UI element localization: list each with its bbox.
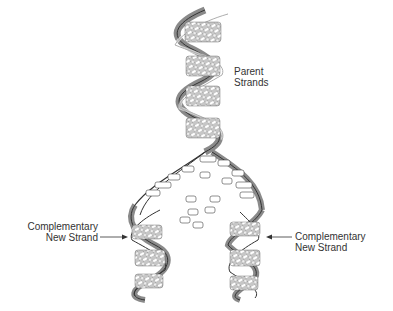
parent-label-line-1: Parent	[234, 66, 268, 77]
right-new-strand-label: Complementary New Strand	[295, 231, 366, 253]
right-label-line-2: New Strand	[295, 242, 366, 253]
left-daughter-helix	[131, 205, 168, 300]
right-arrow	[266, 235, 292, 240]
left-label-line-1: Complementary	[20, 221, 98, 232]
right-label-line-1: Complementary	[295, 231, 366, 242]
parent-label-line-2: Strands	[234, 77, 268, 88]
dna-replication-diagram	[0, 0, 393, 311]
right-daughter-helix	[228, 210, 262, 300]
replication-fork	[135, 152, 262, 228]
left-new-strand-label: Complementary New Strand	[20, 221, 98, 243]
left-arrow	[100, 235, 128, 240]
parent-strands-label: Parent Strands	[234, 66, 268, 88]
left-label-line-2: New Strand	[20, 232, 98, 243]
parent-helix	[175, 10, 228, 152]
